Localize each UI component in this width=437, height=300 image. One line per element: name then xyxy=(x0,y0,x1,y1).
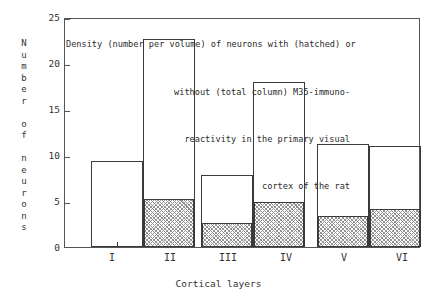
x-tick-label-IV: IV xyxy=(270,252,302,264)
y-axis-title: N u m b e r o f n e u r o n s xyxy=(16,38,32,234)
x-tick-label-III: III xyxy=(212,252,244,264)
x-axis-title: Cortical layers xyxy=(0,278,437,289)
annotation-line-2: without (total column) M35-immuno- xyxy=(66,85,350,101)
y-tick-label: 10 xyxy=(38,151,60,161)
y-tick-label: 15 xyxy=(38,105,60,115)
x-tick-label-I: I xyxy=(96,252,128,264)
annotation-line-3: reactivity in the primary visual xyxy=(66,132,350,148)
y-tick-label: 5 xyxy=(38,197,60,207)
bar-column-VI xyxy=(369,146,421,247)
y-tick-label: 0 xyxy=(38,243,60,253)
annotation-line-1: Density (number per volume) of neurons w… xyxy=(66,37,350,53)
x-tick-label-VI: VI xyxy=(386,252,418,264)
x-tick-label-II: II xyxy=(154,252,186,264)
y-tick-label: 25 xyxy=(38,13,60,23)
chart-annotation: Density (number per volume) of neurons w… xyxy=(66,6,350,226)
bar-hatched-VI xyxy=(370,209,420,246)
x-tick-label-V: V xyxy=(328,252,360,264)
bar-hatched-III xyxy=(202,223,252,246)
y-axis-tick-labels: 25 20 15 10 5 0 xyxy=(38,0,60,300)
chart-figure: N u m b e r o f n e u r o n s 25 20 15 1… xyxy=(0,0,437,300)
y-tick-label: 20 xyxy=(38,59,60,69)
annotation-line-4: cortex of the rat xyxy=(66,179,350,195)
